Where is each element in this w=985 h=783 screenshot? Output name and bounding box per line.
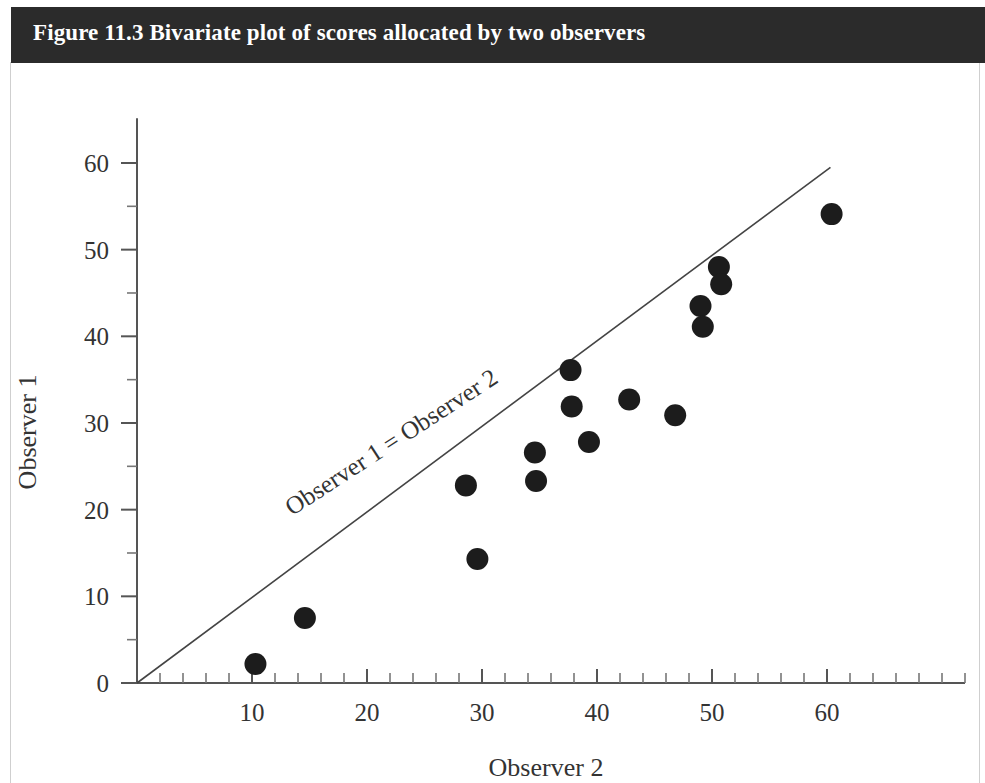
y-axis-tick-label: 60 <box>84 150 109 177</box>
data-point <box>618 389 640 411</box>
x-axis-tick-label: 30 <box>470 699 495 726</box>
x-axis-tick-label: 50 <box>700 699 725 726</box>
data-point <box>690 295 712 317</box>
scatter-plot-svg: 1020304050600102030405060 Observer 1 = O… <box>0 62 985 783</box>
data-point <box>525 470 547 492</box>
data-point <box>578 431 600 453</box>
data-point <box>294 607 316 629</box>
data-point <box>821 203 843 225</box>
data-points-group <box>244 203 842 675</box>
y-axis-tick-label: 0 <box>97 670 110 697</box>
x-axis-tick-label: 40 <box>585 699 610 726</box>
figure-page: Figure 11.3 Bivariate plot of scores all… <box>0 0 985 783</box>
y-axis-title: Observer 1 <box>13 375 42 490</box>
reference-line-label: Observer 1 = Observer 2 <box>280 363 502 520</box>
x-axis-tick-label: 10 <box>240 699 265 726</box>
data-point <box>244 653 266 675</box>
data-point <box>455 474 477 496</box>
data-point <box>561 396 583 418</box>
y-axis-tick-label: 30 <box>84 410 109 437</box>
data-point <box>560 359 582 381</box>
data-point <box>710 273 732 295</box>
data-point <box>664 404 686 426</box>
data-point <box>692 316 714 338</box>
x-axis-tick-label: 20 <box>355 699 380 726</box>
reference-line-group: Observer 1 = Observer 2 <box>137 167 830 683</box>
y-axis-tick-label: 50 <box>84 237 109 264</box>
chart-plot-area: 1020304050600102030405060 Observer 1 = O… <box>0 62 985 783</box>
y-axis-tick-label: 20 <box>84 497 109 524</box>
identity-reference-line <box>137 167 830 683</box>
x-axis-tick-label: 60 <box>815 699 840 726</box>
data-point <box>466 548 488 570</box>
figure-caption-bar: Figure 11.3 Bivariate plot of scores all… <box>11 7 985 63</box>
y-axis-tick-label: 10 <box>84 583 109 610</box>
y-axis-tick-label: 40 <box>84 323 109 350</box>
data-point <box>524 441 546 463</box>
figure-caption-text: Figure 11.3 Bivariate plot of scores all… <box>33 20 645 46</box>
x-axis-title: Observer 2 <box>489 753 604 782</box>
